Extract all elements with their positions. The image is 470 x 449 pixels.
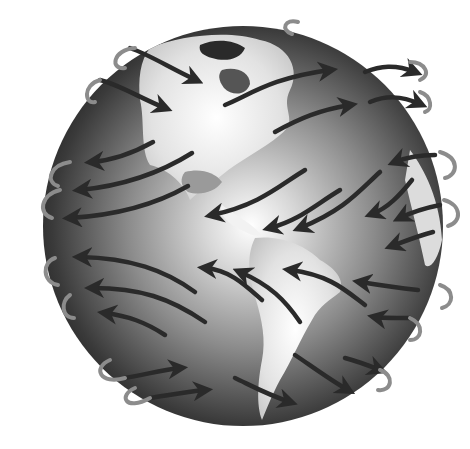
globe-svg — [0, 0, 470, 449]
wind-arrow — [375, 317, 410, 318]
ribbon-loop — [440, 152, 455, 178]
ribbon-loop — [420, 92, 430, 112]
wind-globe-illustration — [0, 0, 470, 449]
ribbon-loop — [444, 200, 458, 226]
ribbon-loop — [285, 21, 298, 34]
ribbon-loop — [378, 370, 390, 390]
wind-arrow — [365, 67, 415, 72]
ribbon-loop — [440, 285, 451, 308]
